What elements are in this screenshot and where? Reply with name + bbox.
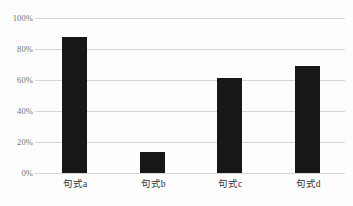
- y-tick-label: 0%: [0, 168, 33, 178]
- bar-series-2: [217, 78, 242, 173]
- bar-series-0: [62, 37, 87, 173]
- x-axis-labels: 句式a 句式b 句式c 句式d: [35, 176, 345, 196]
- x-label-category-1: 句式b: [113, 176, 193, 190]
- bars-layer: [35, 18, 345, 173]
- bar-series-1: [140, 152, 165, 173]
- x-label-category-0: 句式a: [35, 176, 115, 190]
- x-label-category-3: 句式d: [268, 176, 348, 190]
- bar-series-3: [295, 66, 320, 173]
- y-tick-label: 100%: [0, 13, 33, 23]
- y-tick-label: 80%: [0, 44, 33, 54]
- x-label-category-2: 句式c: [190, 176, 270, 190]
- y-tick-label: 40%: [0, 106, 33, 116]
- bar-chart: 100% 80% 60% 40% 20% 0% 句式a 句式b 句式c 句式d: [0, 0, 353, 206]
- y-axis-ticks: 100% 80% 60% 40% 20% 0%: [0, 18, 33, 173]
- y-tick-label: 60%: [0, 75, 33, 85]
- y-tick-label: 20%: [0, 137, 33, 147]
- axis-baseline: [35, 173, 345, 174]
